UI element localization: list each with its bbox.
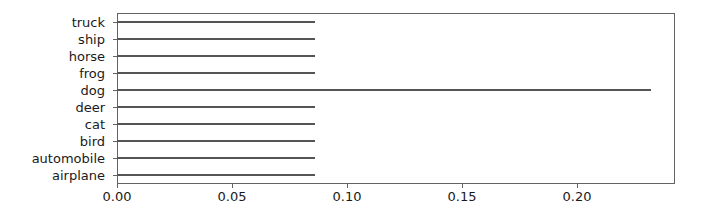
y-tick-label-ship: ship — [78, 32, 105, 45]
y-tick-label-automobile: automobile — [32, 152, 105, 165]
bar-truck — [117, 21, 315, 23]
x-tick-label-0.10: 0.10 — [333, 190, 362, 204]
bar-chart-figure: airplaneautomobilebirdcatdeerdogfroghors… — [0, 0, 706, 218]
bar-dog — [117, 89, 651, 91]
y-tick-cat — [113, 124, 117, 125]
y-tick-label-airplane: airplane — [52, 169, 105, 182]
bar-frog — [117, 72, 315, 74]
y-tick-label-cat: cat — [85, 118, 105, 131]
y-tick-dog — [113, 90, 117, 91]
y-tick-label-horse: horse — [69, 49, 105, 62]
y-tick-label-deer: deer — [75, 101, 105, 114]
y-tick-bird — [113, 141, 117, 142]
x-tick-label-0.15: 0.15 — [448, 190, 477, 204]
y-tick-automobile — [113, 158, 117, 159]
x-tick-0.15 — [462, 184, 463, 188]
y-tick-label-bird: bird — [80, 135, 105, 148]
y-tick-frog — [113, 73, 117, 74]
bar-deer — [117, 106, 315, 108]
bar-automobile — [117, 157, 315, 159]
x-tick-0.10 — [347, 184, 348, 188]
y-tick-horse — [113, 56, 117, 57]
x-tick-0.00 — [117, 184, 118, 188]
y-tick-deer — [113, 107, 117, 108]
y-tick-label-truck: truck — [72, 15, 105, 28]
x-tick-0.20 — [577, 184, 578, 188]
bar-airplane — [117, 174, 315, 176]
bar-cat — [117, 123, 315, 125]
bar-ship — [117, 38, 315, 40]
x-tick-label-0.00: 0.00 — [103, 190, 132, 204]
y-tick-ship — [113, 39, 117, 40]
x-tick-label-0.20: 0.20 — [563, 190, 592, 204]
y-tick-label-dog: dog — [81, 83, 105, 96]
y-tick-label-frog: frog — [79, 66, 105, 79]
x-tick-label-0.05: 0.05 — [218, 190, 247, 204]
y-tick-airplane — [113, 175, 117, 176]
y-tick-truck — [113, 22, 117, 23]
x-tick-0.05 — [232, 184, 233, 188]
bar-bird — [117, 140, 315, 142]
bar-horse — [117, 55, 315, 57]
